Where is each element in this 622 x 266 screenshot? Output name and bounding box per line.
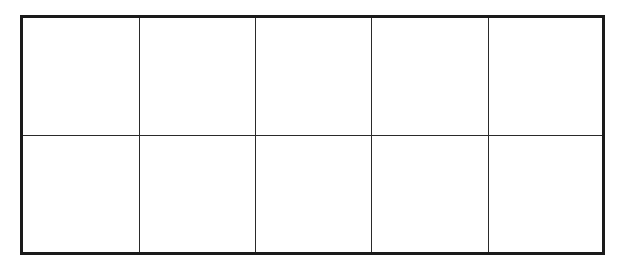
grid-cell-r2-c4: [372, 136, 489, 252]
grid-cell-r1-c5: [489, 18, 602, 136]
grid-cell-r2-c2: [140, 136, 256, 252]
empty-grid-2x5: [20, 15, 605, 255]
grid-cell-r2-c1: [23, 136, 140, 252]
grid-cell-r1-c2: [140, 18, 256, 136]
grid-cell-r2-c5: [489, 136, 602, 252]
grid-cell-r2-c3: [256, 136, 372, 252]
grid-cell-r1-c1: [23, 18, 140, 136]
grid-cell-r1-c4: [372, 18, 489, 136]
grid-cell-r1-c3: [256, 18, 372, 136]
